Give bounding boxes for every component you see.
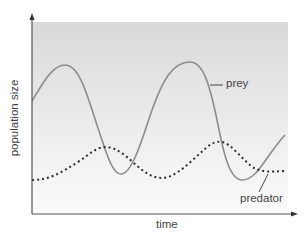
plot-background (32, 22, 288, 213)
prey-label: prey (226, 77, 248, 89)
predator-label: predator (240, 192, 283, 204)
y-axis-arrow-icon (30, 13, 35, 20)
y-axis-label: population size (8, 80, 20, 157)
x-axis-arrow-icon (291, 212, 298, 217)
predator-prey-chart (0, 0, 308, 240)
x-axis-label: time (156, 218, 178, 230)
